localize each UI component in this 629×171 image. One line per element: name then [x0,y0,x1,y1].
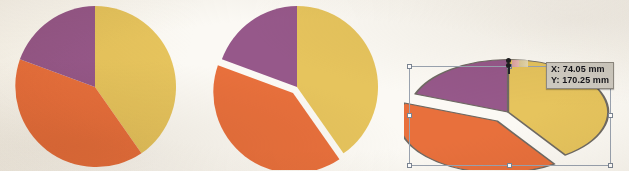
coordinate-tooltip: X: 74.05 mm Y: 170.25 mm [546,62,614,89]
pie-3-slice-purple[interactable] [415,60,508,112]
pie-1-graphic [12,4,178,170]
tooltip-x-value: X: 74.05 mm [551,64,609,75]
tooltip-y-value: Y: 170.25 mm [551,75,609,86]
illustration-canvas: X: 74.05 mm Y: 170.25 mm [0,0,629,171]
pie-2-graphic [212,4,384,170]
pie-chart-exploded[interactable] [212,4,384,170]
pie-chart-intact[interactable] [12,4,178,170]
